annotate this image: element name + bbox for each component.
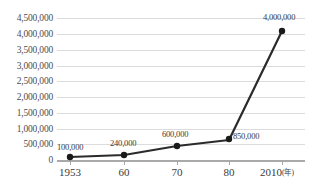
data-point-marker: [279, 28, 285, 34]
data-point-marker: [174, 143, 180, 149]
data-point-label: 4,000,000: [263, 13, 295, 22]
line-chart: 4,500,000 4,000,000 3,500,000 3,000,000 …: [0, 0, 313, 187]
data-point-label: 100,000: [57, 143, 83, 152]
data-series: [0, 0, 313, 187]
data-point-marker: [226, 136, 232, 142]
data-point-marker: [67, 154, 73, 160]
data-point-label: 850,000: [233, 132, 259, 141]
data-point-marker: [121, 152, 127, 158]
data-point-label: 240,000: [110, 139, 136, 148]
data-point-label: 600,000: [162, 130, 188, 139]
